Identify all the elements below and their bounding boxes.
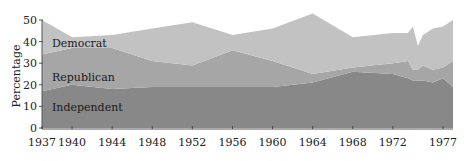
- x-tick-label: 1972: [379, 136, 407, 149]
- x-tick-label: 1968: [339, 136, 367, 149]
- series-label-independent: Independent: [52, 101, 123, 114]
- x-tick-label: 1977: [429, 136, 457, 149]
- x-tick-label: 1964: [299, 136, 327, 149]
- x-tick-label: 1937: [28, 136, 56, 149]
- x-tick-label: 1940: [58, 136, 86, 149]
- x-tick-label: 1960: [259, 136, 287, 149]
- y-axis-label: Percentage: [10, 45, 23, 108]
- series-label-democrat: Democrat: [52, 37, 107, 50]
- series-label-republican: Republican: [52, 71, 115, 84]
- party-identification-chart: 0102030405019371940194419481952195619601…: [0, 0, 464, 161]
- y-tick-label: 40: [23, 36, 37, 49]
- y-tick-label: 50: [23, 14, 37, 27]
- x-tick-label: 1956: [218, 136, 246, 149]
- x-tick-label: 1952: [178, 136, 206, 149]
- x-tick-label: 1948: [138, 136, 166, 149]
- y-tick-label: 20: [23, 79, 37, 92]
- y-tick-label: 10: [23, 100, 37, 113]
- x-tick-label: 1944: [98, 136, 126, 149]
- y-tick-label: 0: [30, 122, 37, 135]
- y-tick-label: 30: [23, 57, 37, 70]
